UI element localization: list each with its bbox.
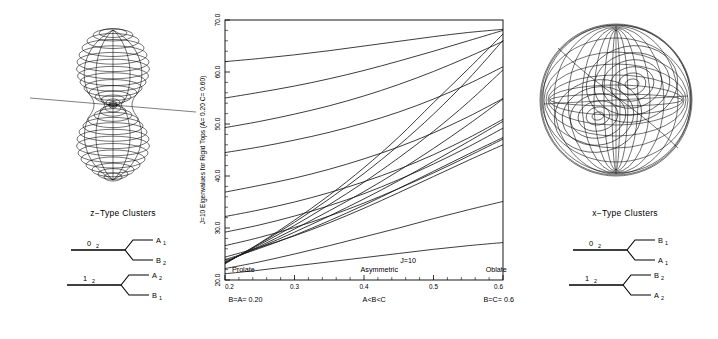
y-axis-title-group: J=10 Eigenvalues for Rigid Tops (A= 0.20… bbox=[199, 76, 207, 225]
upper-label-0: A bbox=[156, 236, 161, 245]
lower-label-0: B bbox=[156, 256, 161, 265]
eigenvalue-curve bbox=[225, 201, 503, 268]
origin-sub-1: 2 bbox=[594, 278, 597, 284]
lower-sub-0: 1 bbox=[665, 260, 668, 266]
left-rotational-energy-surface bbox=[28, 8, 198, 193]
lower-sub-0: 2 bbox=[163, 260, 166, 266]
upper-sub-1: 2 bbox=[159, 275, 162, 281]
lower-label-1: A bbox=[654, 291, 659, 300]
x-tick-label: 0.4 bbox=[360, 283, 369, 290]
x-bottom-label: A<B<C bbox=[363, 295, 386, 304]
chart-annotation: J=10 bbox=[400, 256, 416, 265]
left-res-svg bbox=[28, 8, 198, 193]
origin-label-0: 0 bbox=[87, 239, 91, 248]
right-rotational-energy-surface bbox=[528, 8, 706, 193]
eigenvalue-curve bbox=[225, 30, 503, 98]
x-bottom-label: B=A= 0.20 bbox=[228, 295, 262, 304]
upper-sub-0: 1 bbox=[665, 240, 668, 246]
eigenvalue-curve bbox=[225, 67, 503, 153]
branch-lower-0 bbox=[111, 250, 153, 260]
eigenvalue-curve bbox=[225, 41, 503, 127]
origin-sub-0: 2 bbox=[96, 243, 99, 249]
x-type-surface-wireframe bbox=[540, 24, 692, 176]
x-axis-ticks-group: 0.20.30.40.50.6 bbox=[225, 275, 503, 290]
eigenvalue-curve bbox=[225, 34, 503, 264]
right-cluster-title: x−Type Clusters bbox=[520, 208, 718, 218]
lower-label-0: A bbox=[658, 256, 663, 265]
origin-sub-1: 2 bbox=[92, 278, 95, 284]
eigenvalue-curve bbox=[225, 139, 503, 246]
branch-lower-1 bbox=[107, 285, 149, 295]
upper-sub-0: 1 bbox=[163, 240, 166, 246]
eigenvalue-curve bbox=[225, 128, 503, 232]
x-tick-label: 0.2 bbox=[225, 283, 234, 290]
upper-label-1: A bbox=[152, 271, 157, 280]
y-tick-label: 60.0 bbox=[214, 65, 221, 78]
eigenvalue-curve bbox=[225, 145, 503, 257]
y-axis-title: J=10 Eigenvalues for Rigid Tops (A= 0.20… bbox=[199, 76, 207, 225]
chart-annotation: Oblate bbox=[486, 265, 507, 274]
branch-upper-0 bbox=[111, 240, 153, 250]
right-res-svg bbox=[528, 8, 706, 193]
y-tick-label: 40.0 bbox=[214, 169, 221, 182]
x-tick-label: 0.6 bbox=[494, 283, 503, 290]
eigenvalue-curve bbox=[225, 70, 503, 263]
left-cluster-levels-svg: 0 2 A 1 B 2 1 2 A 2 B 1 bbox=[53, 228, 193, 306]
y-tick-label: 20.0 bbox=[214, 273, 221, 286]
origin-label-1: 1 bbox=[585, 274, 589, 283]
branch-lower-0 bbox=[613, 250, 655, 260]
origin-label-1: 1 bbox=[83, 274, 87, 283]
upper-sub-1: 2 bbox=[661, 275, 664, 281]
eigenvalue-curve bbox=[225, 99, 503, 262]
branch-upper-1 bbox=[107, 275, 149, 285]
lower-sub-1: 1 bbox=[159, 295, 162, 301]
right-cluster-levels-svg: 0 2 B 1 A 1 1 2 B 2 A 2 bbox=[555, 228, 695, 306]
x-bottom-label: B=C= 0.60 bbox=[484, 295, 514, 304]
upper-label-0: B bbox=[658, 236, 663, 245]
chart-annotation: Asymmetric bbox=[361, 265, 399, 274]
x-tick-label: 0.3 bbox=[290, 283, 299, 290]
branch-upper-1 bbox=[609, 275, 651, 285]
y-tick-label: 30.0 bbox=[214, 221, 221, 234]
eigenvalue-curve bbox=[225, 29, 503, 61]
x-tick-label: 0.5 bbox=[429, 283, 438, 290]
y-tick-label: 50.0 bbox=[214, 117, 221, 130]
chart-svg: J=10 Eigenvalues for Rigid Tops (A= 0.20… bbox=[196, 8, 514, 333]
x-bottom-labels-group: B=A= 0.20A<B<CB=C= 0.60 bbox=[228, 295, 514, 304]
eigenvalue-correlation-chart: J=10 Eigenvalues for Rigid Tops (A= 0.20… bbox=[196, 8, 514, 333]
eigenvalue-curve bbox=[225, 40, 503, 263]
right-cluster-diagram: x−Type Clusters 0 2 B 1 A 1 1 2 B 2 A 2 bbox=[520, 208, 718, 306]
origin-sub-0: 2 bbox=[598, 243, 601, 249]
origin-label-0: 0 bbox=[589, 239, 593, 248]
upper-label-1: B bbox=[654, 271, 659, 280]
branch-lower-1 bbox=[609, 285, 651, 295]
y-tick-label: 70.0 bbox=[214, 13, 221, 26]
z-type-surface-wireframe bbox=[30, 29, 196, 182]
lower-sub-1: 2 bbox=[661, 295, 664, 301]
branch-upper-0 bbox=[613, 240, 655, 250]
chart-annotation: Prolate bbox=[232, 265, 255, 274]
lower-label-1: B bbox=[152, 291, 157, 300]
curve-group bbox=[225, 29, 503, 273]
